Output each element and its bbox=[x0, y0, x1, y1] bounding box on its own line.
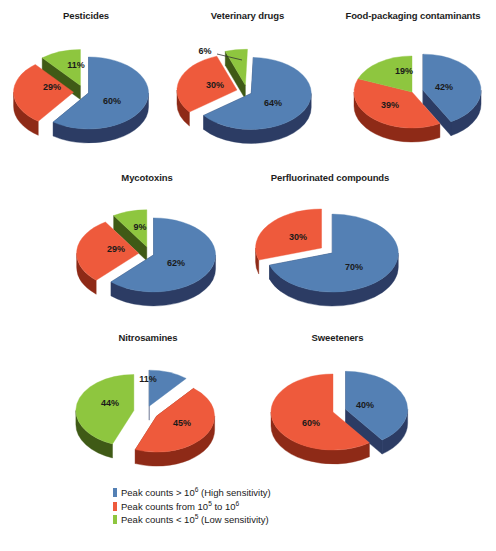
pie-sweeteners-slice-label: 60% bbox=[302, 418, 320, 428]
pie-veterinary-drugs-slice-label: 64% bbox=[264, 98, 282, 108]
legend-low-sensitivity[interactable]: Peak counts < 105 (Low sensitivity) bbox=[113, 513, 271, 527]
pie-perfluorinated-compounds-slice-label: 70% bbox=[345, 262, 363, 272]
legend-high-sensitivity-swatch-icon bbox=[113, 488, 117, 497]
pie-veterinary-drugs-slice-label: 30% bbox=[206, 80, 224, 90]
pie-food-packaging-contaminants: Food-packaging contaminants42%39%19% bbox=[330, 10, 496, 160]
pie-nitrosamines-canvas: 11%45%44% bbox=[58, 332, 238, 482]
pie-veterinary-drugs: Veterinary drugs64%30%6% bbox=[165, 10, 330, 155]
pie-mycotoxins-canvas: 62%29%9% bbox=[62, 172, 232, 317]
legend-low-sensitivity-swatch-icon bbox=[113, 515, 117, 524]
legend-low-sensitivity-label: Peak counts < 105 (Low sensitivity) bbox=[121, 513, 269, 527]
pie-perfluorinated-compounds-canvas: 70%30% bbox=[240, 172, 420, 317]
pie-food-packaging-contaminants-slice-label: 39% bbox=[381, 100, 399, 110]
pie-food-packaging-contaminants-slice-label: 42% bbox=[435, 82, 453, 92]
pie-mycotoxins-slice-label: 29% bbox=[107, 244, 125, 254]
pie-nitrosamines-slice-label: 44% bbox=[101, 398, 119, 408]
legend-mid-sensitivity-swatch-icon bbox=[113, 502, 117, 511]
pie-nitrosamines: Nitrosamines11%45%44% bbox=[58, 332, 238, 482]
pie-mycotoxins-slice-label: 9% bbox=[133, 222, 146, 232]
pie-chart-figure: Pesticides60%29%11%Veterinary drugs64%30… bbox=[0, 0, 496, 551]
pie-pesticides: Pesticides60%29%11% bbox=[6, 10, 166, 155]
pie-sweeteners-canvas: 40%60% bbox=[245, 332, 430, 482]
pie-nitrosamines-slice-label: 45% bbox=[173, 418, 191, 428]
pie-pesticides-slice-label: 60% bbox=[103, 96, 121, 106]
legend-mid-sensitivity[interactable]: Peak counts from 105 to 106 bbox=[113, 500, 271, 514]
legend-high-sensitivity-label: Peak counts > 106 (High sensitivity) bbox=[121, 486, 271, 500]
legend-high-sensitivity[interactable]: Peak counts > 106 (High sensitivity) bbox=[113, 486, 271, 500]
pie-pesticides-canvas: 60%29%11% bbox=[6, 10, 166, 155]
pie-pesticides-slice-label: 11% bbox=[67, 60, 85, 70]
pie-sweeteners-slice-label: 40% bbox=[356, 400, 374, 410]
legend-mid-sensitivity-label: Peak counts from 105 to 106 bbox=[121, 500, 239, 514]
pie-perfluorinated-compounds-slice-label: 30% bbox=[289, 232, 307, 242]
pie-mycotoxins-slice-label: 62% bbox=[167, 258, 185, 268]
pie-food-packaging-contaminants-canvas: 42%39%19% bbox=[330, 10, 496, 160]
pie-food-packaging-contaminants-slice-label: 19% bbox=[395, 66, 413, 76]
pie-pesticides-slice-label: 29% bbox=[43, 82, 61, 92]
pie-nitrosamines-slice-label: 11% bbox=[139, 374, 157, 384]
pie-mycotoxins: Mycotoxins62%29%9% bbox=[62, 172, 232, 317]
pie-veterinary-drugs-canvas: 64%30%6% bbox=[165, 10, 330, 155]
pie-perfluorinated-compounds: Perfluorinated compounds70%30% bbox=[240, 172, 420, 317]
pie-veterinary-drugs-slice-label: 6% bbox=[198, 46, 211, 56]
pie-sweeteners: Sweeteners40%60% bbox=[245, 332, 430, 482]
chart-legend: Peak counts > 106 (High sensitivity)Peak… bbox=[113, 486, 271, 527]
